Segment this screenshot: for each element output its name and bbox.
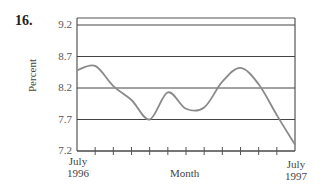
line-chart xyxy=(0,0,322,193)
chart-frame xyxy=(77,18,295,151)
x-start-label: July 1996 xyxy=(62,155,94,179)
x-end-year: 1997 xyxy=(280,170,312,182)
x-end-month: July xyxy=(280,158,312,170)
x-start-month: July xyxy=(62,155,94,167)
x-axis-label: Month xyxy=(170,167,199,179)
x-start-year: 1996 xyxy=(62,167,94,179)
x-end-label: July 1997 xyxy=(280,158,312,182)
data-line xyxy=(77,65,295,144)
